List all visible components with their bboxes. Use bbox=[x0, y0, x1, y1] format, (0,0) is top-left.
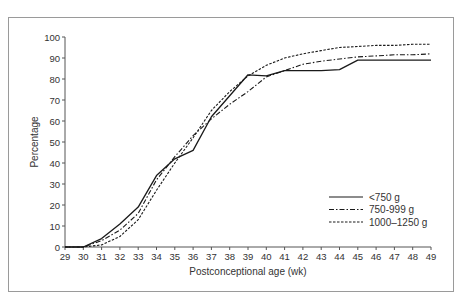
x-axis-title: Postconceptional age (wk) bbox=[189, 266, 306, 277]
y-tick-label: 90 bbox=[49, 53, 60, 64]
y-tick-label: 100 bbox=[44, 32, 60, 43]
x-tick-label: 45 bbox=[353, 251, 364, 262]
x-tick-label: 42 bbox=[298, 251, 309, 262]
legend: <750 g750-999 g1000–1250 g bbox=[329, 192, 427, 228]
x-tick-label: 40 bbox=[261, 251, 272, 262]
y-tick-label: 40 bbox=[49, 158, 60, 169]
x-tick-label: 36 bbox=[188, 251, 199, 262]
line-chart: 0102030405060708090100293031323334353637… bbox=[0, 0, 467, 307]
x-tick-label: 47 bbox=[389, 251, 400, 262]
x-tick-label: 31 bbox=[96, 251, 107, 262]
x-tick-label: 46 bbox=[371, 251, 382, 262]
x-tick-label: 41 bbox=[279, 251, 290, 262]
x-tick-label: 49 bbox=[426, 251, 437, 262]
x-tick-label: 39 bbox=[243, 251, 254, 262]
y-axis-title: Percentage bbox=[29, 116, 40, 168]
legend-label: <750 g bbox=[369, 192, 400, 203]
x-tick-label: 43 bbox=[316, 251, 327, 262]
y-tick-label: 60 bbox=[49, 116, 60, 127]
y-tick-label: 50 bbox=[49, 137, 60, 148]
x-tick-label: 48 bbox=[407, 251, 418, 262]
y-tick-label: 80 bbox=[49, 74, 60, 85]
x-tick-label: 38 bbox=[224, 251, 235, 262]
legend-label: 1000–1250 g bbox=[369, 217, 427, 228]
y-tick-label: 20 bbox=[49, 200, 60, 211]
x-tick-label: 44 bbox=[334, 251, 345, 262]
x-tick-label: 35 bbox=[170, 251, 181, 262]
y-tick-label: 10 bbox=[49, 221, 60, 232]
x-tick-label: 29 bbox=[60, 251, 71, 262]
y-tick-label: 70 bbox=[49, 95, 60, 106]
x-tick-label: 30 bbox=[78, 251, 89, 262]
y-tick-label: 30 bbox=[49, 179, 60, 190]
legend-label: 750-999 g bbox=[369, 204, 414, 215]
x-tick-label: 37 bbox=[206, 251, 217, 262]
x-tick-label: 34 bbox=[151, 251, 162, 262]
x-tick-label: 32 bbox=[115, 251, 126, 262]
x-tick-label: 33 bbox=[133, 251, 144, 262]
